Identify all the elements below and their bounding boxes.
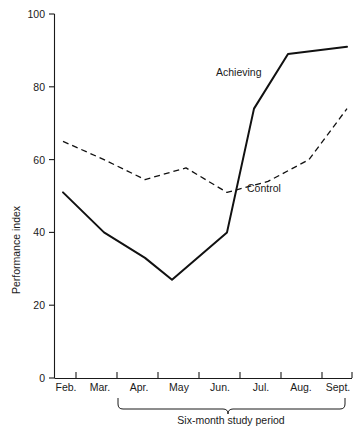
performance-index-line-chart: 100 80 60 40 20 0 Performance index Feb.…	[0, 0, 357, 428]
y-tick-labels: 100 80 60 40 20 0	[27, 8, 45, 384]
x-tick-label-mar: Mar.	[90, 381, 110, 393]
y-tick-label-80: 80	[33, 81, 45, 93]
y-tick-label-100: 100	[27, 8, 45, 20]
x-tick-label-feb: Feb.	[55, 381, 76, 393]
series-label-achieving: Achieving	[216, 66, 262, 78]
y-tick-marks	[49, 14, 55, 378]
x-tick-label-apr: Apr.	[130, 381, 149, 393]
series-label-control: Control	[247, 182, 281, 194]
chart-canvas: 100 80 60 40 20 0 Performance index Feb.…	[0, 0, 357, 428]
x-tick-labels: Feb. Mar. Apr. May Jun. Jul. Aug. Sept.	[55, 381, 350, 393]
x-tick-label-sept: Sept.	[326, 381, 351, 393]
x-tick-label-may: May	[169, 381, 190, 393]
y-tick-label-0: 0	[39, 372, 45, 384]
y-tick-label-20: 20	[33, 299, 45, 311]
study-period-brace	[118, 398, 345, 414]
y-tick-label-60: 60	[33, 154, 45, 166]
x-tick-marks	[76, 372, 352, 378]
series-line-control	[63, 109, 347, 193]
study-period-caption: Six-month study period	[177, 414, 285, 426]
y-axis-title: Performance index	[10, 205, 22, 294]
y-tick-label-40: 40	[33, 226, 45, 238]
x-tick-label-jul: Jul.	[253, 381, 269, 393]
x-tick-label-jun: Jun.	[210, 381, 230, 393]
series-line-achieving	[63, 47, 347, 280]
x-tick-label-aug: Aug.	[290, 381, 312, 393]
